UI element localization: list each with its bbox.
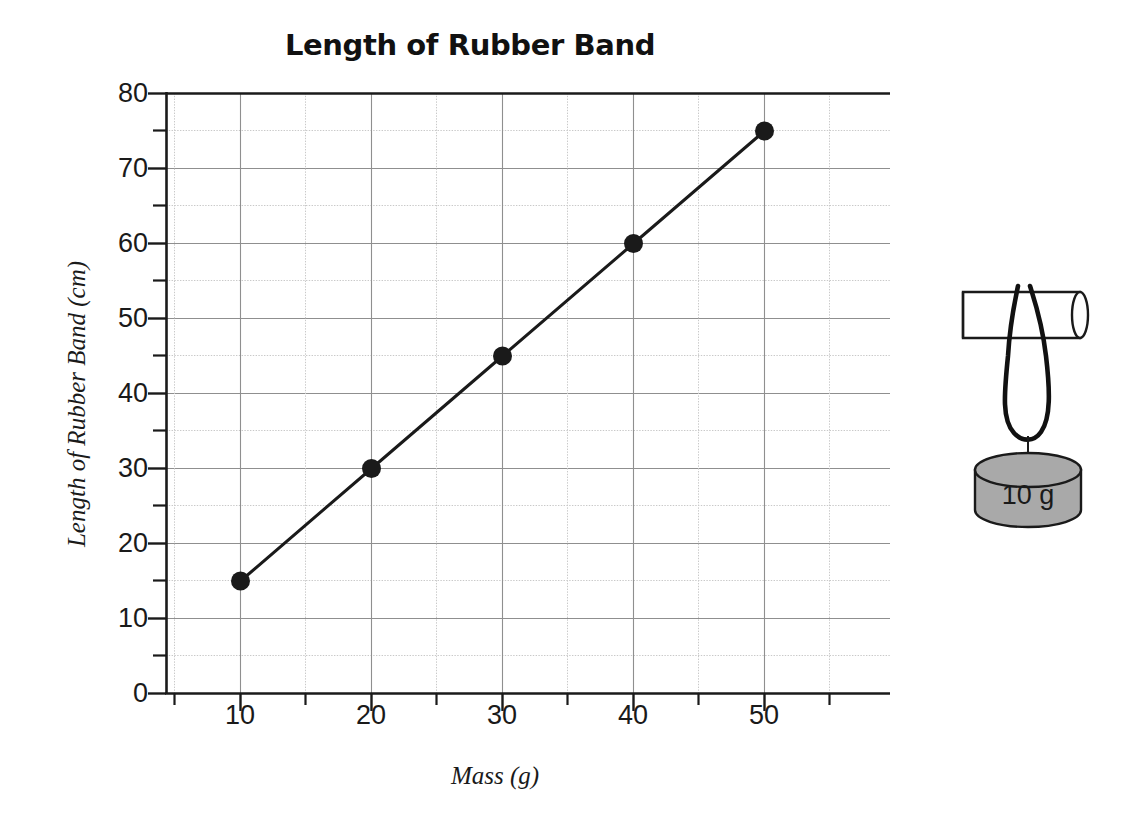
weight-label-text: 10 g [1002,480,1055,510]
weight-label: 10 g [1002,480,1055,510]
data-point-50-75 [755,122,774,141]
data-point-10-15 [231,572,250,591]
figure-rubber-band-length: Length of Rubber Band 80 70 60 50 40 30 … [0,0,1142,823]
support-rod-icon [963,292,1088,338]
y-axis-major-ticks [148,94,166,694]
apparatus-svg: 10 g [930,270,1130,560]
data-point-30-45 [493,347,512,366]
rubber-band-apparatus-diagram: 10 g [930,270,1130,560]
data-point-40-60 [624,234,643,253]
x-axis-major-ticks [241,693,765,711]
data-point-20-30 [362,459,381,478]
